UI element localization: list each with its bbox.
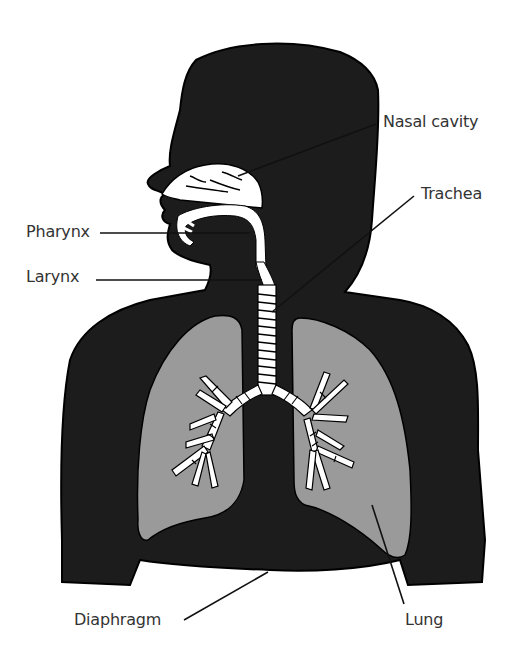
label-diaphragm: Diaphragm bbox=[74, 612, 161, 628]
respiratory-system-diagram bbox=[0, 0, 529, 653]
diaphragm-leader bbox=[184, 572, 268, 620]
label-larynx: Larynx bbox=[26, 269, 79, 285]
label-nasal-cavity: Nasal cavity bbox=[383, 114, 478, 130]
trachea-shape bbox=[258, 285, 276, 395]
label-lung: Lung bbox=[405, 612, 443, 628]
label-pharynx: Pharynx bbox=[26, 224, 90, 240]
label-trachea: Trachea bbox=[421, 186, 482, 202]
